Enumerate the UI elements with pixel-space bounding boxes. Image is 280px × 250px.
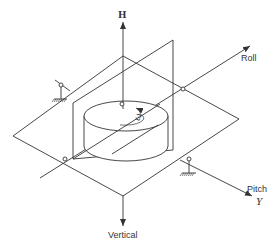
pivot-roll <box>181 87 185 91</box>
pivot-left <box>63 157 67 161</box>
pitch-axis-label: Pitch <box>247 185 267 194</box>
roll-axis-label: Roll <box>241 54 257 63</box>
pivot-center <box>120 102 124 106</box>
pitch-symbol-label: Y <box>256 196 262 207</box>
gyroscope-diagram <box>0 0 280 250</box>
vertical-axis-label: Vertical <box>108 231 138 240</box>
h-axis-label: H <box>118 11 127 20</box>
pitch-axis <box>180 160 252 196</box>
